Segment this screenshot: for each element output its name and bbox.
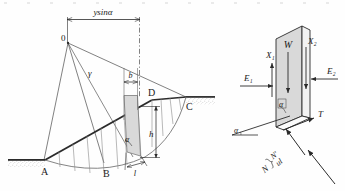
label-center-0: 0 xyxy=(61,33,66,43)
label-point-c: C xyxy=(186,101,193,112)
label-ysina: ysinα xyxy=(92,7,112,17)
label-point-d: D xyxy=(148,87,155,98)
label-alpha-ground: α xyxy=(234,126,239,135)
label-force-e2: E₂ xyxy=(326,66,336,76)
dimension-ysina xyxy=(67,17,140,97)
figure-canvas: ysinα 0 γ xyxy=(0,0,345,191)
label-force-x1: X₁ xyxy=(265,50,275,60)
left-slope-diagram: ysinα 0 γ xyxy=(8,7,215,179)
normal-force-label-group: N N' ul xyxy=(256,150,285,178)
label-force-t: T xyxy=(318,109,324,119)
label-radius-gamma: γ xyxy=(88,68,92,78)
force-arrow-n xyxy=(286,129,305,155)
label-point-a: A xyxy=(41,166,49,177)
radius-line-to-a xyxy=(44,43,68,160)
label-point-b: B xyxy=(103,168,110,179)
label-force-e1: E₁ xyxy=(243,73,253,83)
label-h: h xyxy=(149,129,154,139)
label-l: l xyxy=(134,168,137,178)
highlighted-slice xyxy=(124,96,141,157)
label-b: b xyxy=(129,71,133,80)
ground-texture-left xyxy=(8,161,45,167)
radius-line-to-slice xyxy=(68,43,133,157)
figure-root: ysinα 0 γ xyxy=(0,0,345,191)
right-free-body-diagram: W X₁ X₂ E₁ E₂ α α T xyxy=(232,26,338,184)
slice-division-lines xyxy=(59,98,181,174)
radius-line-to-c xyxy=(68,43,186,97)
force-arrow-ul xyxy=(308,150,335,184)
label-force-n: N xyxy=(259,163,271,176)
label-force-x2: X₂ xyxy=(307,36,317,46)
dimension-l-ext-left xyxy=(125,153,126,171)
crest-dc xyxy=(152,97,186,100)
